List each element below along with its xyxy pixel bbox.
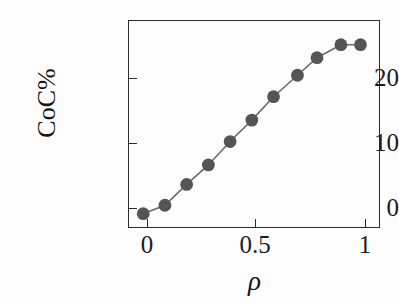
data-point (137, 207, 150, 220)
data-point (354, 38, 367, 51)
data-point (159, 199, 172, 212)
y-axis-title: CoC% (32, 43, 62, 163)
data-point (180, 178, 193, 191)
data-point (224, 135, 237, 148)
x-axis-title-text: ρ (248, 266, 261, 296)
data-series-line (128, 20, 380, 228)
x-axis-title: ρ (0, 266, 399, 297)
series-line-0 (143, 45, 360, 214)
x-tick-label-0: 0 (112, 232, 182, 257)
x-tick-label-0.5: 0.5 (220, 232, 290, 257)
x-tick-label-1: 1 (330, 232, 399, 257)
data-point (245, 114, 258, 127)
plot-area (128, 20, 380, 228)
data-point (267, 90, 280, 103)
data-point (335, 38, 348, 51)
data-point (291, 69, 304, 82)
data-point (202, 159, 215, 172)
chart-figure: CoC% 20 10 0 0 0.5 1 ρ (0, 0, 399, 305)
data-point (311, 51, 324, 64)
